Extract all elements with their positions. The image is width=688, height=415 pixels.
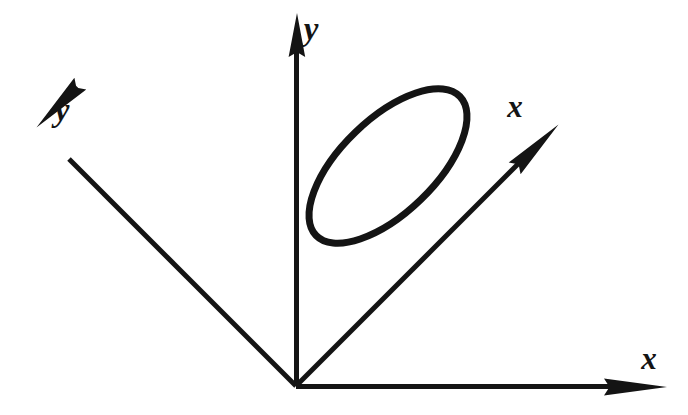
y-axis-rotated-shaft xyxy=(69,159,296,386)
x-axis-rotated-shaft xyxy=(296,157,525,386)
y-axis-vertical-arrowhead xyxy=(289,13,306,57)
label-y-rotated-axis: y xyxy=(55,94,70,127)
figure-canvas: y y x x xyxy=(0,0,688,415)
label-y-vertical-axis: y xyxy=(304,13,319,46)
label-x-horizontal-axis: x xyxy=(641,343,657,374)
label-x-rotated-axis: x xyxy=(507,91,523,122)
x-axis-horizontal-arrowhead xyxy=(604,379,667,396)
axes-diagram-svg xyxy=(0,0,688,415)
tilted-ellipse xyxy=(283,63,492,270)
